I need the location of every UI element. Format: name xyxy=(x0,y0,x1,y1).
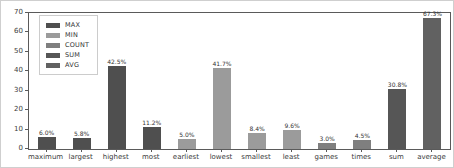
y-tick-label: 40 xyxy=(5,67,23,74)
bar-value-label: 41.7% xyxy=(212,60,231,67)
y-tick-mark xyxy=(25,51,28,52)
y-tick-label: 30 xyxy=(5,87,23,94)
bar-value-label: 5.8% xyxy=(74,130,89,137)
x-tick-label-lowest: lowest xyxy=(210,153,233,161)
x-tick-label-sum: sum xyxy=(389,153,404,161)
x-tick-mark xyxy=(396,149,397,152)
bar-earliest xyxy=(178,139,196,149)
y-tick-mark xyxy=(25,70,28,71)
legend-label: COUNT xyxy=(65,41,89,49)
x-tick-label-most: most xyxy=(142,153,160,161)
bar-average xyxy=(423,18,441,149)
legend-swatch-icon xyxy=(46,63,60,68)
legend-swatch-icon xyxy=(46,53,60,58)
chart-legend: MAXMINCOUNTSUMAVG xyxy=(39,15,98,75)
bar-times xyxy=(353,140,371,149)
legend-label: AVG xyxy=(65,61,79,69)
bar-value-label: 3.0% xyxy=(320,135,335,142)
y-tick-label: 50 xyxy=(5,48,23,55)
bar-sum xyxy=(388,89,406,149)
bar-games xyxy=(318,143,336,149)
x-tick-label-smallest: smallest xyxy=(241,153,270,161)
bar-value-label: 30.8% xyxy=(388,81,407,88)
y-tick-mark xyxy=(25,31,28,32)
legend-label: MAX xyxy=(65,21,80,29)
x-tick-label-highest: highest xyxy=(103,153,129,161)
x-tick-mark xyxy=(116,149,117,152)
x-tick-mark xyxy=(46,149,47,152)
legend-row-max: MAX xyxy=(46,20,89,30)
x-tick-label-least: least xyxy=(283,153,300,161)
x-tick-label-times: times xyxy=(352,153,371,161)
x-tick-mark xyxy=(81,149,82,152)
legend-row-avg: AVG xyxy=(46,60,89,70)
y-tick-mark xyxy=(25,90,28,91)
bar-smallest xyxy=(248,133,266,149)
bar-value-label: 4.5% xyxy=(355,132,370,139)
bar-value-label: 5.0% xyxy=(179,131,194,138)
bar-value-label: 42.5% xyxy=(107,58,126,65)
x-tick-mark xyxy=(151,149,152,152)
x-tick-mark xyxy=(291,149,292,152)
y-tick-mark xyxy=(25,148,28,149)
plot-area: MAXMINCOUNTSUMAVG 6.0%5.8%42.5%11.2%5.0%… xyxy=(28,12,451,150)
bar-highest xyxy=(108,66,126,149)
bar-lowest xyxy=(213,68,231,149)
x-tick-mark xyxy=(431,149,432,152)
bar-value-label: 6.0% xyxy=(39,129,54,136)
x-tick-mark xyxy=(221,149,222,152)
x-tick-label-largest: largest xyxy=(69,153,93,161)
bar-value-label: 9.6% xyxy=(285,122,300,129)
x-tick-mark xyxy=(186,149,187,152)
x-tick-label-average: average xyxy=(417,153,446,161)
bar-value-label: 11.2% xyxy=(142,119,161,126)
bar-largest xyxy=(73,138,91,149)
legend-label: SUM xyxy=(65,51,80,59)
y-tick-label: 60 xyxy=(5,28,23,35)
legend-row-count: COUNT xyxy=(46,40,89,50)
bar-most xyxy=(143,127,161,149)
legend-swatch-icon xyxy=(46,23,60,28)
legend-swatch-icon xyxy=(46,43,60,48)
bar-chart-figure: 010203040506070 MAXMINCOUNTSUMAVG 6.0%5.… xyxy=(0,0,454,168)
bar-value-label: 8.4% xyxy=(249,125,264,132)
x-tick-mark xyxy=(361,149,362,152)
x-tick-mark xyxy=(256,149,257,152)
bar-maximum xyxy=(38,137,56,149)
y-tick-label: 20 xyxy=(5,106,23,113)
legend-label: MIN xyxy=(65,31,78,39)
y-tick-mark xyxy=(25,12,28,13)
y-tick-label: 10 xyxy=(5,126,23,133)
y-tick-label: 70 xyxy=(5,9,23,16)
x-tick-mark xyxy=(326,149,327,152)
y-tick-mark xyxy=(25,129,28,130)
legend-swatch-icon xyxy=(46,33,60,38)
y-tick-mark xyxy=(25,109,28,110)
legend-row-sum: SUM xyxy=(46,50,89,60)
x-tick-label-earliest: earliest xyxy=(173,153,199,161)
legend-row-min: MIN xyxy=(46,30,89,40)
bar-least xyxy=(283,130,301,149)
y-tick-label: 0 xyxy=(5,145,23,152)
x-tick-label-games: games xyxy=(314,153,338,161)
x-tick-label-maximum: maximum xyxy=(28,153,63,161)
bar-value-label: 67.3% xyxy=(423,10,442,17)
